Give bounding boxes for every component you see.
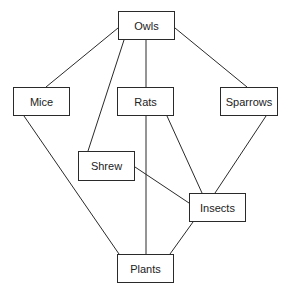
- node-label-mice: Mice: [30, 96, 53, 108]
- edge-rats-insects: [167, 116, 202, 193]
- node-label-insects: Insects: [200, 202, 235, 214]
- node-mice: Mice: [13, 87, 70, 116]
- edge-owls-mice: [46, 28, 118, 87]
- edges-layer: [0, 0, 291, 292]
- edge-sparrows-insects: [215, 116, 266, 193]
- node-sparrows: Sparrows: [220, 87, 278, 116]
- node-label-sparrows: Sparrows: [226, 96, 272, 108]
- edge-mice-plants: [24, 116, 119, 254]
- node-insects: Insects: [189, 193, 246, 222]
- food-web-diagram: Owls Mice Rats Sparrows Shrew Insects Pl…: [0, 0, 291, 292]
- edge-owls-sparrows: [175, 28, 247, 87]
- node-plants: Plants: [117, 254, 174, 283]
- node-label-shrew: Shrew: [91, 160, 122, 172]
- node-owls: Owls: [118, 11, 175, 40]
- node-shrew: Shrew: [78, 151, 135, 181]
- node-label-rats: Rats: [134, 96, 157, 108]
- node-rats: Rats: [117, 87, 174, 116]
- node-label-plants: Plants: [130, 263, 161, 275]
- edge-shrew-insects: [135, 167, 189, 203]
- edge-insects-plants: [170, 222, 193, 254]
- node-label-owls: Owls: [134, 20, 158, 32]
